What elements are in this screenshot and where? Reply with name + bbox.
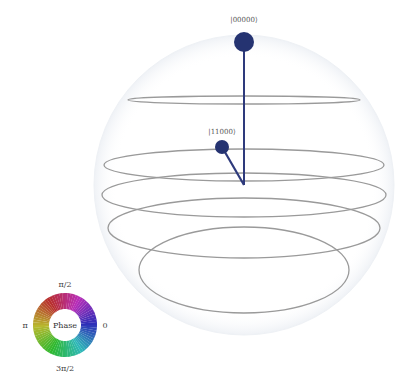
qsphere-diagram: |00000⟩|11000⟩ Phaseπ/2π03π/2 bbox=[0, 0, 405, 392]
state-point bbox=[234, 32, 254, 52]
phase-left-label: π bbox=[22, 321, 27, 330]
state-point bbox=[215, 140, 229, 154]
phase-center-label: Phase bbox=[53, 321, 77, 330]
state-label: |00000⟩ bbox=[230, 16, 258, 24]
state-label: |11000⟩ bbox=[208, 128, 236, 136]
phase-bottom-label: 3π/2 bbox=[56, 364, 74, 373]
phase-right-label: 0 bbox=[102, 321, 107, 330]
phase-top-label: π/2 bbox=[58, 280, 71, 289]
phase-wheel: Phaseπ/2π03π/2 bbox=[22, 280, 107, 373]
